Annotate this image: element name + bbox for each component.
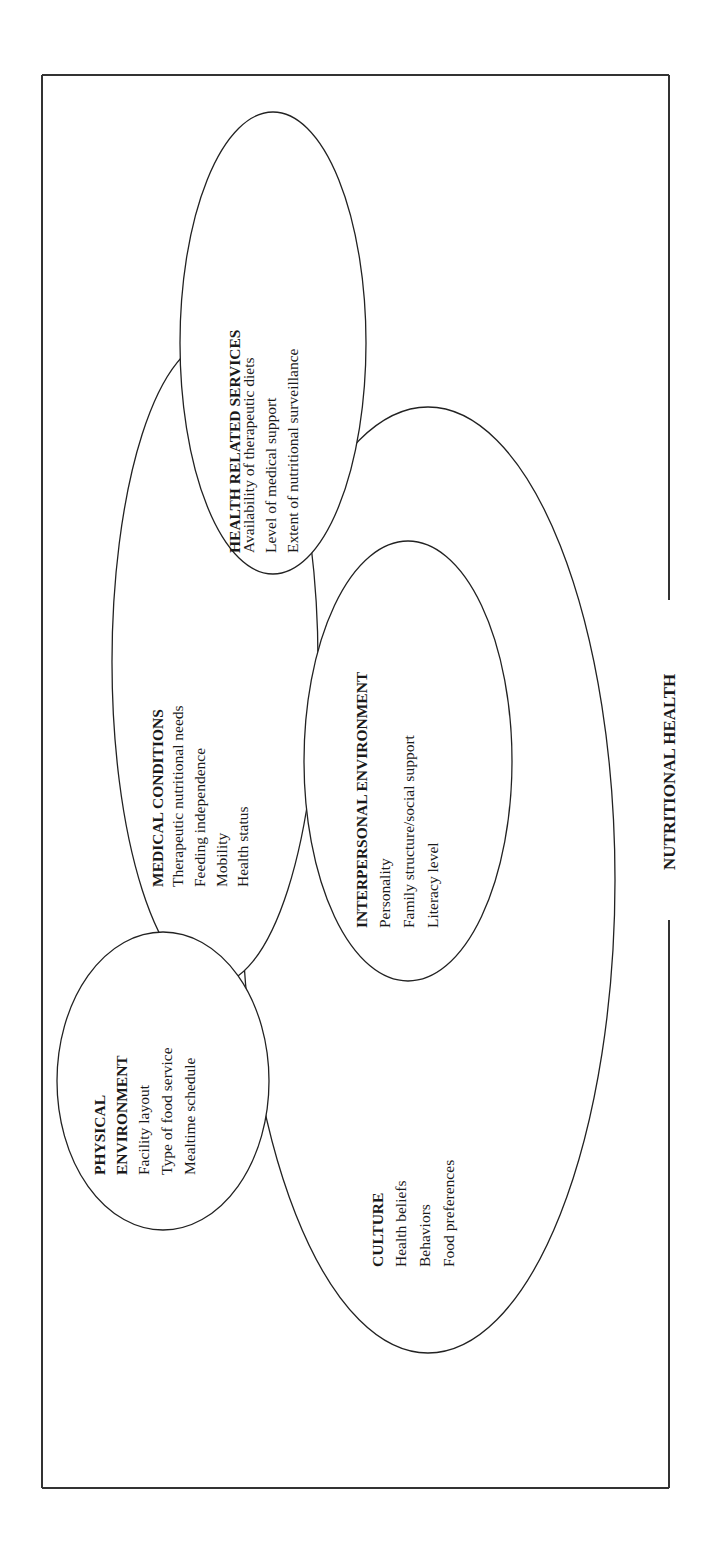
medical-conditions-heading: MEDICAL CONDITIONS [149,709,166,887]
interpersonal-environment-heading: INTERPERSONAL ENVIRONMENT [353,671,370,928]
physical-item: Facility layout [135,1084,152,1175]
medical-item: Health status [234,807,251,888]
interpersonal-item: Personality [376,858,393,928]
physical-environment-heading-line2: ENVIRONMENT [113,1055,130,1175]
medical-item: Mobility [213,832,230,887]
physical-item: Type of food service [158,1047,175,1175]
physical-item: Mealtime schedule [181,1057,198,1175]
health-item: Availability of therapeutic diets [240,357,257,553]
culture-heading: CULTURE [369,1193,386,1267]
culture-item: Health beliefs [392,1180,409,1267]
medical-item: Feeding independence [191,748,208,887]
diagram-title: NUTRITIONAL HEALTH [660,674,679,870]
interpersonal-item: Literacy level [424,842,441,928]
interpersonal-item: Family structure/social support [400,734,417,928]
culture-item: Food preferences [440,1160,457,1267]
medical-item: Therapeutic nutritional needs [169,705,186,887]
physical-environment-heading-line1: PHYSICAL [91,1095,108,1175]
culture-item: Behaviors [416,1204,433,1267]
health-item: Extent of nutritional surveillance [284,348,301,553]
nutritional-health-diagram: HEALTH RELATED SERVICES Availability of … [0,0,708,1545]
health-item: Level of medical support [262,397,279,553]
